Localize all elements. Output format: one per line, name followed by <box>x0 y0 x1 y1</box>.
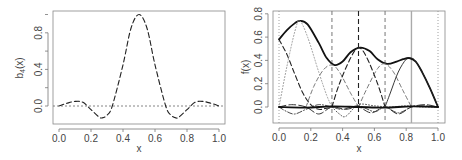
y-tick-label: 0.2 <box>253 76 264 90</box>
left-plot-frame <box>53 11 225 124</box>
y-tick-label: 0.4 <box>253 53 264 67</box>
x-tick-label: 0.6 <box>148 133 162 144</box>
left-y-axis: 0.00.40.8 <box>33 15 48 113</box>
right-y-axis-label: f(x) <box>240 60 251 74</box>
right-y-axis: 0.00.20.40.60.8 <box>253 6 268 114</box>
y-tick-label: 0.8 <box>253 6 264 20</box>
series-line-basis-1 <box>279 39 335 109</box>
y-tick-label: 0.0 <box>253 100 264 114</box>
left-panel: 0.00.20.40.60.81.0 0.00.40.8 x b4(x) <box>14 11 226 154</box>
series-line-basis-2 <box>279 21 332 107</box>
y-tick-label: 0.0 <box>33 99 44 113</box>
x-tick-label: 0.0 <box>272 132 286 143</box>
x-tick-label: 0.2 <box>304 132 318 143</box>
x-tick-label: 0.8 <box>180 133 194 144</box>
x-tick-label: 0.4 <box>116 133 130 144</box>
left-y-axis-label: b4(x) <box>14 57 26 78</box>
y-tick-label: 0.4 <box>33 62 44 76</box>
x-tick-label: 0.8 <box>399 132 413 143</box>
series-line-baseline-thick <box>279 106 438 107</box>
series-line-b4-x- <box>59 15 219 119</box>
right-x-axis-label: x <box>357 143 362 154</box>
series-line-basis-3 <box>306 65 358 107</box>
x-tick-label: 0.0 <box>52 133 66 144</box>
left-x-axis: 0.00.20.40.60.81.0 <box>52 129 226 144</box>
x-tick-label: 1.0 <box>212 133 226 144</box>
x-tick-label: 0.4 <box>336 132 350 143</box>
left-x-axis-label: x <box>137 143 142 154</box>
left-series-group <box>59 15 219 119</box>
x-tick-label: 0.6 <box>367 132 381 143</box>
x-tick-label: 1.0 <box>431 132 445 143</box>
y-tick-label: 0.6 <box>253 30 264 44</box>
figure: 0.00.20.40.60.81.0 0.00.40.8 x b4(x) 0.0… <box>0 0 462 160</box>
right-panel: 0.00.20.40.60.81.0 0.00.20.40.60.8 x f(x… <box>240 6 445 154</box>
y-tick-label: 0.8 <box>33 25 44 39</box>
x-tick-label: 0.2 <box>84 133 98 144</box>
right-x-axis: 0.00.20.40.60.81.0 <box>272 128 445 143</box>
